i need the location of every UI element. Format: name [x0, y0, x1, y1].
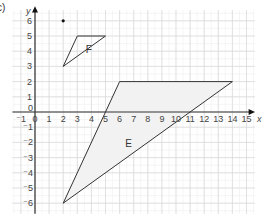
x-tick-label: 0 — [32, 114, 37, 124]
x-tick-label: 10 — [171, 114, 181, 124]
x-axis-label: x — [256, 114, 262, 124]
y-tick-label: 1 — [27, 92, 32, 102]
label-f: F — [86, 44, 92, 55]
y-tick-label: ⁻3 — [23, 153, 33, 163]
coordinate-diagram: xy⁻10123456789101112131415123456⁻1⁻2⁻3⁻4… — [0, 0, 265, 217]
part-label: c) — [0, 2, 5, 13]
y-tick-label: ⁻4 — [23, 168, 33, 178]
y-tick-label: 2 — [27, 77, 32, 87]
point-marker — [62, 19, 65, 22]
x-tick-label: 9 — [159, 114, 164, 124]
x-tick-label: 7 — [131, 114, 136, 124]
y-tick-label: 3 — [27, 61, 32, 71]
y-tick-label: ⁻5 — [23, 183, 33, 193]
x-tick-label: 2 — [61, 114, 66, 124]
y-axis-arrow-icon — [32, 6, 38, 12]
x-tick-label: 8 — [145, 114, 150, 124]
y-tick-label: 0 — [28, 103, 33, 113]
x-tick-label: 15 — [241, 114, 251, 124]
x-tick-label: 6 — [117, 114, 122, 124]
x-tick-label: 14 — [227, 114, 237, 124]
x-tick-label: 11 — [185, 114, 194, 124]
x-tick-label: 12 — [199, 114, 209, 124]
y-tick-label: 4 — [27, 46, 32, 56]
x-tick-label: 1 — [47, 114, 52, 124]
x-tick-label: 4 — [89, 114, 94, 124]
y-tick-label: 6 — [27, 16, 32, 26]
y-tick-label: ⁻6 — [23, 198, 33, 208]
y-tick-label: ⁻2 — [23, 137, 33, 147]
label-e: E — [125, 138, 132, 149]
y-tick-label: 5 — [27, 31, 32, 41]
x-tick-label: 13 — [213, 114, 223, 124]
x-tick-label: 5 — [103, 114, 108, 124]
x-tick-label: 3 — [75, 114, 80, 124]
coordinate-grid: xy⁻10123456789101112131415123456⁻1⁻2⁻3⁻4… — [0, 0, 265, 217]
y-tick-label: ⁻1 — [23, 122, 33, 132]
